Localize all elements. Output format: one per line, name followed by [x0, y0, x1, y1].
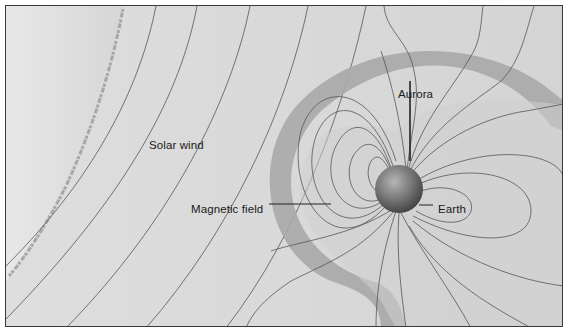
earth-globe — [375, 165, 423, 213]
magnetic-field-label: Magnetic field — [191, 203, 263, 215]
solar-wind-label: Solar wind — [149, 139, 204, 151]
earth-label: Earth — [438, 203, 466, 215]
diagram-frame: Solar wind Aurora Magnetic field Earth — [5, 5, 563, 327]
magnetosphere-illustration — [6, 6, 563, 327]
aurora-label: Aurora — [398, 88, 433, 100]
